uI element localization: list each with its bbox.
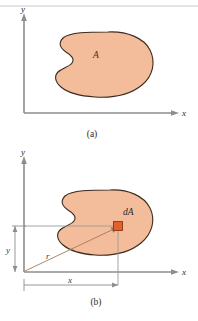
figure-svg: y x A (a) y x [0,0,198,321]
panel-b-y-axis-arrowhead [21,156,27,164]
panel-b-differential-element [114,222,123,231]
panel-b-element-label: dA [123,207,134,217]
panel-a-area-shape [56,32,153,97]
panel-a-area-label: A [92,50,99,60]
panel-b-caption: (b) [90,297,101,308]
panel-b-area-shape [58,190,153,255]
panel-b-y-axis-label: y [20,147,25,157]
panel-b-y-dimension-arrow-top [13,226,18,232]
panel-b-x-dimension-label: x [67,275,72,285]
panel-a-caption: (a) [87,129,98,140]
panel-a-y-axis-arrowhead [21,13,27,21]
panel-b-x-axis-arrowhead [171,269,179,275]
panel-a-x-axis-arrowhead [171,110,179,116]
panel-b-x-dimension-arrow [112,283,118,288]
panel-b: y x r dA y x [5,147,186,308]
figure-container: y x A (a) y x [0,0,198,321]
panel-b-y-dimension-label: y [5,245,10,255]
panel-b-y-dimension-arrow-bottom [13,266,18,272]
panel-b-x-axis-label: x [181,267,186,277]
panel-a-x-axis-label: x [181,108,186,118]
panel-a-y-axis-label: y [20,4,25,14]
panel-a: y x A (a) [20,4,186,140]
panel-b-radius-label: r [46,251,50,261]
